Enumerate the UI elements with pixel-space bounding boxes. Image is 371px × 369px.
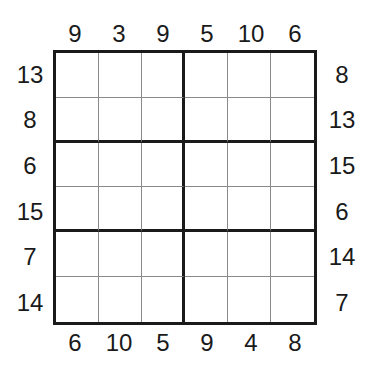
left-clue-5: 7 xyxy=(8,245,52,271)
bottom-clue-4: 9 xyxy=(185,331,229,357)
left-clue-3: 6 xyxy=(8,154,52,180)
grid-cell-r4c3[interactable] xyxy=(142,187,185,232)
grid-cell-r3c5[interactable] xyxy=(228,143,271,188)
puzzle-board: 9 3 9 5 10 6 6 10 5 9 4 8 13 8 6 15 7 14… xyxy=(0,0,371,369)
bottom-clue-1: 6 xyxy=(53,331,97,357)
grid-cell-r2c1[interactable] xyxy=(56,98,99,143)
puzzle-grid xyxy=(53,50,317,325)
grid-cell-r1c2[interactable] xyxy=(99,53,142,98)
bottom-clue-2: 10 xyxy=(97,331,141,357)
left-clue-6: 14 xyxy=(8,291,52,317)
grid-cell-r1c1[interactable] xyxy=(56,53,99,98)
grid-cell-r3c6[interactable] xyxy=(271,143,314,188)
top-clue-4: 5 xyxy=(185,22,229,48)
grid-cell-r3c3[interactable] xyxy=(142,143,185,188)
grid-cell-r2c3[interactable] xyxy=(142,98,185,143)
bottom-clue-5: 4 xyxy=(229,331,273,357)
left-clue-4: 15 xyxy=(8,200,52,226)
bottom-clue-3: 5 xyxy=(141,331,185,357)
right-clue-3: 15 xyxy=(318,154,366,180)
grid-cell-r2c6[interactable] xyxy=(271,98,314,143)
right-clue-2: 13 xyxy=(318,108,366,134)
right-clue-1: 8 xyxy=(318,63,366,89)
grid-cell-r4c2[interactable] xyxy=(99,187,142,232)
grid-cell-r6c1[interactable] xyxy=(56,277,99,322)
bottom-clue-6: 8 xyxy=(273,331,317,357)
right-clue-4: 6 xyxy=(318,200,366,226)
grid-cell-r5c2[interactable] xyxy=(99,232,142,277)
grid-cell-r4c1[interactable] xyxy=(56,187,99,232)
top-clue-2: 3 xyxy=(97,22,141,48)
right-clue-5: 14 xyxy=(318,245,366,271)
grid-cell-r2c2[interactable] xyxy=(99,98,142,143)
grid-cell-r6c4[interactable] xyxy=(185,277,228,322)
right-clue-6: 7 xyxy=(318,291,366,317)
left-clue-2: 8 xyxy=(8,108,52,134)
grid-cell-r4c4[interactable] xyxy=(185,187,228,232)
top-clue-3: 9 xyxy=(141,22,185,48)
grid-cell-r6c2[interactable] xyxy=(99,277,142,322)
grid-cell-r6c6[interactable] xyxy=(271,277,314,322)
grid-cell-r4c6[interactable] xyxy=(271,187,314,232)
grid-cell-r3c1[interactable] xyxy=(56,143,99,188)
grid-cell-r5c1[interactable] xyxy=(56,232,99,277)
grid-cell-r1c3[interactable] xyxy=(142,53,185,98)
grid-cell-r5c5[interactable] xyxy=(228,232,271,277)
grid-cell-r1c6[interactable] xyxy=(271,53,314,98)
grid-cell-r2c4[interactable] xyxy=(185,98,228,143)
grid-cell-r5c4[interactable] xyxy=(185,232,228,277)
grid-cell-r6c5[interactable] xyxy=(228,277,271,322)
top-clue-5: 10 xyxy=(229,22,273,48)
grid-cell-r4c5[interactable] xyxy=(228,187,271,232)
top-clue-1: 9 xyxy=(53,22,97,48)
grid-cell-r3c4[interactable] xyxy=(185,143,228,188)
left-clue-1: 13 xyxy=(8,63,52,89)
grid-cell-r1c5[interactable] xyxy=(228,53,271,98)
grid-cell-r3c2[interactable] xyxy=(99,143,142,188)
grid-cell-r5c6[interactable] xyxy=(271,232,314,277)
grid-cell-r1c4[interactable] xyxy=(185,53,228,98)
grid-cell-r2c5[interactable] xyxy=(228,98,271,143)
top-clue-6: 6 xyxy=(273,22,317,48)
grid-cell-r5c3[interactable] xyxy=(142,232,185,277)
grid-cell-r6c3[interactable] xyxy=(142,277,185,322)
